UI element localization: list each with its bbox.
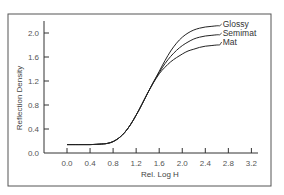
x-tick-label: 0.8: [108, 159, 120, 168]
x-tick-label: 2.4: [200, 159, 212, 168]
y-tick-label: 0.8: [28, 101, 40, 110]
y-tick-label: 2.0: [28, 29, 40, 38]
x-tick-label: 0.0: [61, 159, 73, 168]
x-tick-label: 1.6: [154, 159, 166, 168]
legend-label-mat: Mat: [223, 37, 238, 47]
legend-leader: [220, 33, 222, 35]
y-tick-label: 0.0: [28, 149, 40, 158]
x-axis-title: Rel. Log H: [141, 170, 179, 179]
series-line-mat: [67, 45, 220, 145]
y-tick-label: 1.2: [28, 77, 40, 86]
series-line-semimat: [67, 35, 220, 145]
x-tick-label: 3.2: [246, 159, 258, 168]
legend-leader: [220, 24, 222, 26]
series-line-glossy: [67, 26, 220, 145]
legend: GlossySemimatMat: [220, 19, 257, 47]
legend-leader: [220, 42, 222, 45]
series-group: [67, 26, 220, 145]
x-tick-label: 1.2: [131, 159, 143, 168]
y-tick-label: 1.6: [28, 53, 40, 62]
y-tick-label: 0.4: [28, 125, 40, 134]
x-tick-label: 0.4: [84, 159, 96, 168]
y-axis-title: Reflection Density: [15, 66, 24, 130]
chart: 0.00.40.81.21.62.00.00.40.81.21.62.02.42…: [0, 0, 284, 195]
x-tick-label: 2.0: [177, 159, 189, 168]
x-tick-label: 2.8: [223, 159, 235, 168]
